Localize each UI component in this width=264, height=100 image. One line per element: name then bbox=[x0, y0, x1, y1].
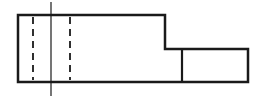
orthographic-drawing bbox=[0, 0, 264, 100]
